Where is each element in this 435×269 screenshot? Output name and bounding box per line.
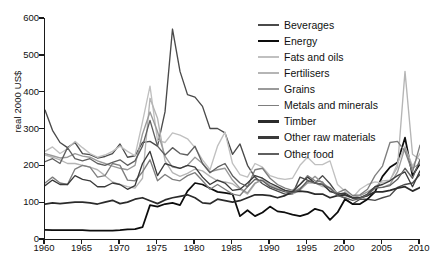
x-tick-label: 1980 [174, 243, 214, 253]
legend-item-label: Fats and oils [284, 52, 344, 63]
legend-item: Fats and oils [258, 49, 416, 65]
legend-swatch-line-icon [258, 88, 279, 90]
legend-swatch-line-icon [258, 56, 279, 58]
y-tick-label: 400 [0, 87, 39, 97]
legend-swatch-line-icon [258, 153, 279, 155]
x-tick-label: 1960 [24, 243, 64, 253]
y-axis-label-holder: real 2000 US$ [2, 0, 16, 230]
legend-item-label: Timber [284, 116, 316, 127]
x-tick-label: 2000 [324, 243, 364, 253]
legend-item: Other raw materials [258, 130, 416, 146]
legend-item-label: Fertilisers [284, 68, 330, 79]
legend-item: Beverages [258, 17, 416, 33]
x-tick-label: 1965 [62, 243, 102, 253]
y-axis-label: real 2000 US$ [12, 54, 23, 150]
y-tick-label: 100 [0, 197, 39, 207]
x-tick-label: 1995 [287, 243, 327, 253]
legend-item: Timber [258, 114, 416, 130]
legend-item-label: Grains [284, 84, 315, 95]
legend-swatch-line-icon [258, 24, 279, 26]
y-tick-label: 200 [0, 160, 39, 170]
x-tick-label: 2010 [399, 243, 435, 253]
legend-item-label: Beverages [284, 20, 334, 31]
y-tick-label: 300 [0, 124, 39, 134]
legend-item-label: Metals and minerals [284, 100, 378, 111]
legend-item: Fertilisers [258, 65, 416, 81]
legend-swatch-line-icon [258, 105, 279, 107]
legend-item: Energy [258, 33, 416, 49]
x-tick-label: 2005 [362, 243, 402, 253]
legend-item: Other food [258, 146, 416, 162]
x-tick-label: 1985 [212, 243, 252, 253]
legend-swatch-line-icon [258, 72, 279, 74]
legend-swatch-line-icon [258, 120, 279, 123]
y-tick-label: 600 [0, 13, 39, 23]
legend: BeveragesEnergyFats and oilsFertilisersG… [258, 17, 416, 162]
x-tick-label: 1970 [99, 243, 139, 253]
legend-swatch-line-icon [258, 40, 279, 43]
legend-item-label: Other food [284, 149, 334, 160]
legend-item: Metals and minerals [258, 97, 416, 113]
legend-item-label: Energy [284, 36, 317, 47]
x-tick-label: 1975 [137, 243, 177, 253]
legend-swatch-line-icon [258, 136, 279, 139]
x-tick-label: 1990 [249, 243, 289, 253]
chart-container: real 2000 US$ 0100200300400500600 196019… [0, 0, 435, 269]
y-tick-label: 500 [0, 50, 39, 60]
legend-item-label: Other raw materials [284, 132, 376, 143]
legend-item: Grains [258, 81, 416, 97]
